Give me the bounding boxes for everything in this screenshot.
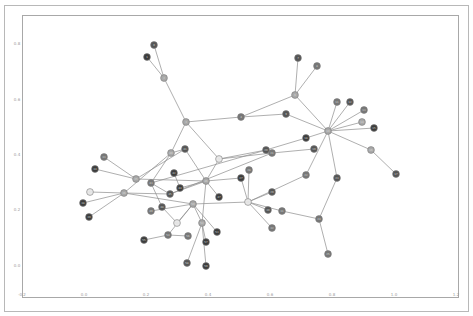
graph-node: 2: [161, 75, 168, 82]
graph-node: 5: [216, 156, 223, 163]
graph-node: 27: [238, 175, 245, 182]
node-label: 58: [185, 262, 189, 265]
node-label: 29: [270, 191, 274, 194]
node-label: 48: [160, 206, 164, 209]
node-label: 16: [369, 149, 373, 152]
node-label: 14: [360, 121, 364, 124]
y-tick-label: 0.4: [14, 152, 21, 157]
graph-node: 57: [203, 239, 210, 246]
graph-node: 58: [184, 260, 191, 267]
node-label: 51: [175, 222, 179, 225]
graph-node: 23: [334, 175, 341, 182]
x-tick-label: 0.4: [205, 292, 212, 297]
node-label: 39: [87, 216, 91, 219]
graph-node: 13: [361, 107, 368, 114]
graph-node: 0: [151, 42, 158, 49]
x-tick-label: 0.0: [81, 292, 88, 297]
node-label: 43: [149, 182, 153, 185]
graph-node: 31: [279, 208, 286, 215]
node-label: 23: [335, 177, 339, 180]
node-label: 59: [204, 265, 208, 268]
graph-node: 12: [347, 99, 354, 106]
node-label: 22: [304, 174, 308, 177]
node-label: 26: [246, 201, 250, 204]
graph-node: 41: [182, 146, 189, 153]
node-label: 38: [81, 202, 85, 205]
y-axis-ticks: 0.00.20.40.60.8: [14, 41, 21, 267]
graph-node: 1: [144, 54, 151, 61]
graph-node: 49: [148, 208, 155, 215]
node-label: 42: [172, 172, 176, 175]
graph-node: 50: [190, 201, 197, 208]
node-label: 37: [88, 191, 92, 194]
graph-node: 54: [165, 232, 172, 239]
node-label: 55: [142, 239, 146, 242]
graph-node: 28: [246, 167, 253, 174]
node-label: 21: [270, 152, 274, 155]
y-tick-label: 0.8: [14, 41, 21, 46]
graph-node: 40: [168, 150, 175, 157]
graph-node: 8: [314, 63, 321, 70]
graph-node: 33: [101, 154, 108, 161]
y-tick-label: 0.2: [14, 207, 21, 212]
graph-node: 36: [121, 190, 128, 197]
node-label: 40: [169, 152, 173, 155]
node-label: 47: [217, 196, 221, 199]
graph-node: 3: [183, 119, 190, 126]
node-label: 25: [326, 253, 330, 256]
graph-node: 19: [311, 146, 318, 153]
graph-node: 37: [87, 189, 94, 196]
node-label: 33: [102, 156, 106, 159]
y-tick-label: 0.6: [14, 97, 21, 102]
graph-node: 51: [174, 220, 181, 227]
node-label: 27: [239, 177, 243, 180]
graph-node: 52: [199, 220, 206, 227]
graph-node: 30: [265, 207, 272, 214]
graph-node: 43: [148, 180, 155, 187]
graph-node: 38: [80, 200, 87, 207]
node-label: 53: [215, 231, 219, 234]
graph-node: 29: [269, 189, 276, 196]
node-label: 54: [166, 234, 170, 237]
node-label: 31: [280, 210, 284, 213]
graph-node: 24: [316, 216, 323, 223]
graph-node: 35: [133, 176, 140, 183]
node-label: 11: [335, 101, 339, 104]
node-label: 35: [134, 178, 138, 181]
node-label: 30: [266, 209, 270, 212]
node-label: 56: [186, 235, 190, 238]
node-label: 17: [394, 173, 398, 176]
x-tick-label: 0.2: [143, 292, 150, 297]
graph-node: 14: [359, 119, 366, 126]
node-label: 15: [372, 127, 376, 130]
x-tick-label: -0.2: [18, 292, 26, 297]
graph-node: 6: [292, 92, 299, 99]
graph-node: 56: [185, 233, 192, 240]
node-label: 44: [178, 187, 182, 190]
x-tick-label: 0.8: [329, 292, 336, 297]
graph-node: 48: [159, 204, 166, 211]
graph-node: 46: [203, 178, 210, 185]
node-label: 50: [191, 203, 195, 206]
graph-node: 9: [283, 111, 290, 118]
graph-node: 53: [214, 229, 221, 236]
x-tick-label: 1.2: [453, 292, 460, 297]
graph-node: 21: [269, 150, 276, 157]
node-label: 52: [200, 222, 204, 225]
network-figure: 0.00.20.40.60.8 -0.20.00.20.40.60.81.01.…: [0, 0, 473, 316]
node-label: 36: [122, 192, 126, 195]
node-label: 49: [149, 210, 153, 213]
graph-node: 26: [245, 199, 252, 206]
graph-node: 34: [92, 166, 99, 173]
graph-node: 25: [325, 251, 332, 258]
node-label: 28: [247, 169, 251, 172]
graph-node: 15: [371, 125, 378, 132]
node-label: 12: [348, 101, 352, 104]
graph-node: 45: [167, 191, 174, 198]
graph-node: 4: [238, 114, 245, 121]
node-label: 20: [264, 149, 268, 152]
graph-node: 7: [295, 55, 302, 62]
node-label: 32: [270, 227, 274, 230]
graph-node: 39: [86, 214, 93, 221]
graph-node: 47: [216, 194, 223, 201]
